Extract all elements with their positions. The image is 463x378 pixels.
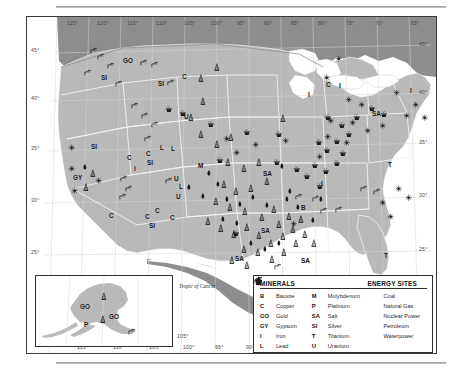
legend-energy-col: ENERGY SITES CoalNatural GasNuclear Powe…: [368, 280, 428, 349]
mineral-marker-t: T: [388, 161, 392, 168]
legend-symbol: M: [312, 293, 328, 299]
legend-energy-row: Petroleum: [368, 321, 428, 331]
longitude-label-top: 95°: [237, 20, 245, 26]
mineral-marker-u: U: [174, 175, 179, 182]
alaska-mineral-p: P: [84, 321, 88, 328]
bottom-divider-rule: [56, 362, 446, 364]
latitude-label-right: 45°: [419, 41, 427, 47]
latitude-label-right: 30°: [419, 192, 427, 198]
longitude-label-top: 110°: [156, 20, 167, 26]
mineral-marker-c: C: [127, 154, 132, 161]
map-frame: GOSISICUSICSILCIMULUGYCCCSICSASASASABICI…: [26, 16, 437, 354]
alaska-mineral-go: GO: [109, 313, 119, 320]
alaska-longitude-label: 105°: [177, 333, 189, 339]
legend-symbol: SA: [312, 313, 328, 319]
mineral-marker-go: GO: [123, 57, 133, 64]
legend-minerals-col1: MINERALS BBauxiteCCopperGOGoldGYGypsumII…: [260, 280, 312, 349]
alaska-inset: GOGOP: [35, 275, 173, 347]
legend-energy-title: ENERGY SITES: [368, 280, 428, 289]
longitude-label-top: 70°: [375, 20, 383, 26]
legend-symbol: U: [312, 343, 328, 349]
longitude-label-top: 75°: [346, 20, 354, 26]
mineral-marker-c: C: [155, 207, 160, 214]
longitude-label-top: 85°: [291, 20, 299, 26]
mineral-marker-c: C: [146, 150, 151, 157]
legend-symbol: T: [312, 333, 328, 339]
latitude-label-left: 25°: [31, 249, 39, 255]
legend-label: Silver: [328, 323, 342, 329]
latitude-label-left: 45°: [31, 47, 39, 53]
legend-symbol: C: [260, 303, 276, 309]
legend-mineral-row: CCopper: [260, 301, 312, 311]
mineral-marker-c: C: [109, 212, 114, 219]
legend-label: Bauxite: [276, 293, 295, 299]
mineral-marker-t: T: [384, 252, 388, 259]
legend-mineral-row: BBauxite: [260, 291, 312, 301]
latitude-label-left: 35°: [31, 145, 39, 151]
longitude-label-top: 120°: [97, 20, 109, 26]
legend-label: Uranium: [328, 343, 349, 349]
legend-symbol: P: [312, 303, 328, 309]
mineral-marker-l: L: [179, 183, 183, 190]
legend-label: Nuclear Power: [384, 313, 421, 319]
top-divider-rule: [56, 6, 446, 8]
longitude-label-top: 105°: [184, 20, 196, 26]
mineral-marker-l: L: [160, 144, 164, 151]
latitude-label-right: 40°: [419, 89, 427, 95]
legend-energy-row: Nuclear Power: [368, 311, 428, 321]
legend-symbol: L: [260, 343, 276, 349]
legend-energy-row: Waterpower: [368, 331, 428, 341]
mineral-marker-i: I: [308, 91, 310, 98]
mineral-marker-si: SI: [147, 159, 153, 166]
legend-label: Coal: [384, 293, 396, 299]
mineral-marker-si: SI: [91, 143, 97, 150]
latitude-label-left: 40°: [31, 95, 39, 101]
legend-label: Gold: [276, 313, 288, 319]
mineral-marker-si: SI: [149, 222, 155, 229]
legend-symbol: GY: [260, 323, 276, 329]
mineral-marker-si: SI: [158, 80, 164, 87]
alaska-vector: [36, 276, 172, 346]
legend-mineral-row: PPlatinum: [312, 301, 368, 311]
legend-mineral-row: MMolybdenum: [312, 291, 368, 301]
legend-mineral-row: GYGypsum: [260, 321, 312, 331]
legend-label: Salt: [328, 313, 338, 319]
legend-label: Lead: [276, 343, 288, 349]
legend-label: Gypsum: [276, 323, 297, 329]
legend-label: Platinum: [328, 303, 350, 309]
longitude-label-bottom: 100°: [183, 344, 195, 350]
longitude-label-top: 125°: [67, 20, 79, 26]
legend-label: Molybdenum: [328, 293, 360, 299]
legend-symbol: I: [260, 333, 276, 339]
latitude-label-right: 35°: [419, 139, 427, 145]
mineral-marker-i: I: [410, 87, 412, 94]
legend-symbol: B: [260, 293, 276, 299]
longitude-label-top: 65°: [411, 20, 419, 26]
mineral-marker-u: U: [176, 193, 181, 200]
mineral-marker-m: M: [198, 162, 203, 169]
mineral-marker-i: I: [134, 165, 136, 172]
legend-mineral-row: SASalt: [312, 311, 368, 321]
tropic-of-cancer-label: Tropic of Cancer: [179, 283, 216, 289]
latitude-label-left: 30°: [31, 197, 39, 203]
mineral-marker-si: SI: [101, 74, 107, 81]
longitude-label-bottom: 95°: [215, 344, 223, 350]
legend-label: Iron: [276, 333, 286, 339]
legend-mineral-row: IIron: [260, 331, 312, 341]
legend-minerals-title: MINERALS: [260, 280, 312, 289]
legend-energy-row: Coal: [368, 291, 428, 301]
legend-mineral-row: SISilver: [312, 321, 368, 331]
legend-mineral-row: TTitanium: [312, 331, 368, 341]
mineral-marker-c: C: [182, 73, 187, 80]
map-legend: MINERALS BBauxiteCCopperGOGoldGYGypsumII…: [253, 275, 433, 353]
alaska-mineral-go: GO: [80, 303, 90, 310]
longitude-label-top: 90°: [264, 20, 272, 26]
legend-energy-row: Natural Gas: [368, 301, 428, 311]
mineral-marker-gy: GY: [73, 174, 82, 181]
legend-mineral-row: LLead: [260, 341, 312, 351]
mineral-marker-c: C: [145, 213, 150, 220]
legend-minerals-spacer: .: [312, 280, 368, 289]
legend-label: Titanium: [328, 333, 349, 339]
mineral-marker-c: C: [170, 214, 175, 221]
legend-symbol: SI: [312, 323, 328, 329]
